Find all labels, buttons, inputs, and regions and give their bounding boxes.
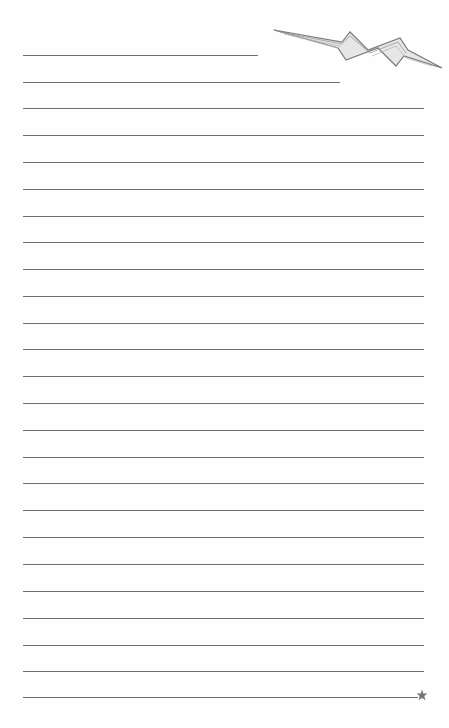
- ruled-line: [23, 457, 424, 458]
- lightning-bolt-icon: [272, 26, 444, 72]
- ruled-line: [23, 296, 424, 297]
- ruled-line: [23, 135, 424, 136]
- ruled-line: [23, 618, 424, 619]
- ruled-line: [23, 671, 424, 672]
- ruled-line: [23, 82, 340, 83]
- ruled-line: [23, 242, 424, 243]
- ruled-line: [23, 697, 418, 698]
- ruled-line: [23, 591, 424, 592]
- ruled-line: [23, 269, 424, 270]
- ruled-line: [23, 403, 424, 404]
- star-icon: [416, 689, 428, 701]
- ruled-line: [23, 162, 424, 163]
- ruled-line: [23, 510, 424, 511]
- ruled-line: [23, 349, 424, 350]
- lined-paper: [0, 0, 449, 728]
- ruled-line: [23, 564, 424, 565]
- ruled-line: [23, 189, 424, 190]
- ruled-line: [23, 645, 424, 646]
- ruled-line: [23, 537, 424, 538]
- ruled-line: [23, 376, 424, 377]
- ruled-line: [23, 55, 258, 56]
- ruled-line: [23, 108, 424, 109]
- ruled-line: [23, 323, 424, 324]
- ruled-line: [23, 216, 424, 217]
- ruled-line: [23, 483, 424, 484]
- ruled-line: [23, 430, 424, 431]
